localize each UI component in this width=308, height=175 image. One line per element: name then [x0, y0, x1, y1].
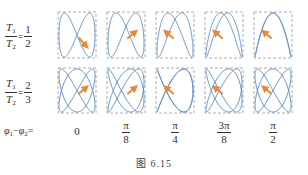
- phase-numerator: π: [171, 120, 179, 133]
- direction-arrow-icon: [79, 88, 86, 94]
- t2-subscript: 2: [12, 43, 16, 51]
- dashed-bounding-box: [205, 12, 243, 58]
- ratio-numerator: 2: [24, 80, 32, 93]
- equals-sign: =: [18, 87, 24, 98]
- phase-numerator: π: [122, 120, 130, 133]
- phase-value-pi-2: π2: [254, 120, 292, 145]
- lissajous-curve: [108, 69, 144, 112]
- lissajous-curve: [206, 13, 242, 57]
- figure-caption: 图 6.15: [0, 155, 308, 170]
- phase-zero: 0: [74, 125, 80, 137]
- lissajous-curve: [108, 13, 144, 57]
- ratio-denominator: 3: [25, 93, 31, 105]
- lissajous-curve: [255, 69, 291, 112]
- phase-value-pi-8: π8: [107, 120, 145, 145]
- t1-subscript: 1: [12, 83, 16, 91]
- direction-arrow-icon: [128, 88, 135, 94]
- ratio-fraction: 2 3: [24, 80, 32, 105]
- row-label-ratio-1-2: T1 T2 = 1 2: [5, 22, 55, 51]
- direction-arrow-icon: [215, 32, 222, 38]
- period-fraction: T1 T2: [5, 22, 17, 51]
- phase-value-3pi-8: 3π8: [205, 120, 243, 145]
- phase-numerator: 3π: [217, 120, 230, 133]
- direction-arrow-icon: [264, 88, 271, 94]
- lissajous-curve: [206, 69, 242, 112]
- phase-value-pi-4: π4: [156, 120, 194, 145]
- phase-denominator: 4: [172, 133, 178, 145]
- ratio-numerator: 1: [24, 24, 32, 37]
- dashed-bounding-box: [107, 12, 145, 58]
- equals-sign: =: [28, 125, 34, 136]
- phase-difference-label: φ1−φ2=: [4, 125, 33, 138]
- phase-denominator: 2: [270, 133, 276, 145]
- lissajous-curve: [157, 13, 193, 57]
- phase-numerator: π: [269, 120, 277, 133]
- ratio-denominator: 2: [25, 37, 31, 49]
- phase-value-0: 0: [58, 125, 96, 137]
- lissajous-curve: [255, 13, 291, 57]
- t1-subscript: 1: [12, 27, 16, 35]
- lissajous-figure: T1 T2 = 1 2 T1 T2 = 2 3 φ1−φ2= 0 π8 π4 3…: [0, 0, 308, 175]
- lissajous-curve: [157, 69, 193, 112]
- row-label-ratio-2-3: T1 T2 = 2 3: [5, 78, 55, 107]
- period-fraction: T1 T2: [5, 78, 17, 107]
- phase-denominator: 8: [123, 133, 129, 145]
- lissajous-curve: [59, 69, 95, 112]
- direction-arrow-icon: [264, 32, 271, 38]
- lissajous-curve: [59, 13, 95, 57]
- phase-denominator: 8: [221, 133, 227, 145]
- t2-subscript: 2: [12, 99, 16, 107]
- equals-sign: =: [18, 31, 24, 42]
- dashed-bounding-box: [254, 12, 292, 58]
- ratio-fraction: 1 2: [24, 24, 32, 49]
